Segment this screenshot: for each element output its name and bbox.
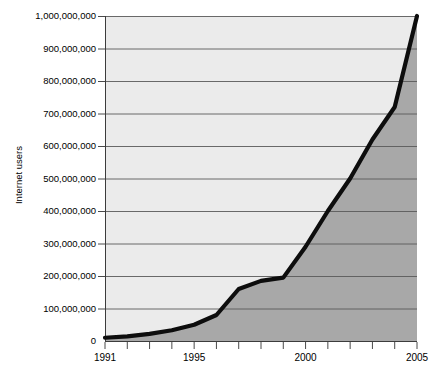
chart-container: 0100,000,000200,000,000300,000,000400,00… [0,0,433,375]
x-axis-tick-label: 1995 [183,352,206,363]
y-axis-tick-label: 600,000,000 [43,140,96,151]
x-axis-tick-label: 2005 [406,352,429,363]
y-axis-tick-label: 0 [91,335,96,346]
y-axis-tick-label: 400,000,000 [43,205,96,216]
y-axis-tick-label: 1,000,000,000 [35,10,96,21]
y-axis-tick-label: 700,000,000 [43,108,96,119]
y-axis-tick-label: 100,000,000 [43,303,96,314]
plot-area [105,16,417,341]
y-axis-tick-label: 300,000,000 [43,238,96,249]
y-axis-tick-label: 800,000,000 [43,75,96,86]
y-axis-tick-label: 200,000,000 [43,270,96,281]
y-axis-tick-label: 500,000,000 [43,173,96,184]
x-axis-tick-label: 2000 [294,352,317,363]
internet-users-area-chart: 0100,000,000200,000,000300,000,000400,00… [0,0,433,375]
caption-remnant [4,362,6,369]
x-axis-tick-label: 1991 [94,352,117,363]
y-axis-tick-label: 900,000,000 [43,43,96,54]
y-axis-title: Internet users [13,146,24,204]
